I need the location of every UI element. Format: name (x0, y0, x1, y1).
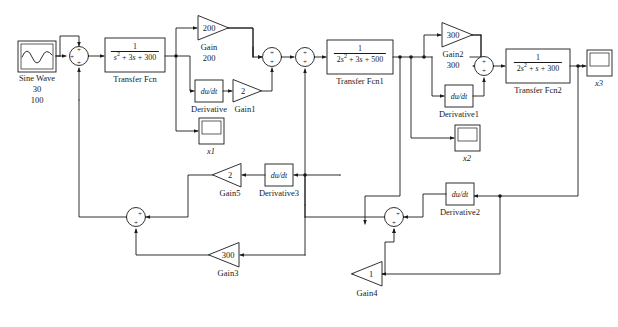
transfer-fcn1-numerator: 1 (334, 44, 386, 53)
transfer-fcn2-numerator: 1 (514, 53, 562, 62)
transfer-fcn1-expression: 1 2s2 + 3s + 500 (334, 44, 386, 64)
sum5-sign-bottom: + (392, 219, 396, 227)
scope-x3-label: x3 (595, 78, 603, 88)
gain3-value: 1 (369, 269, 373, 279)
transfer-fcn1-label: Transfer Fcn1 (336, 76, 384, 86)
transfer-fcn-numerator: 1 (111, 42, 159, 51)
gain2-parameter: 300 (447, 60, 460, 70)
gain1-label: Gain1 (235, 104, 256, 114)
transfer-fcn2-expression: 1 2s2 + s + 300 (514, 53, 562, 73)
sum3-sign-left: + (303, 49, 307, 57)
sum2-sign-left: + (270, 49, 274, 57)
gain-value: 200 (203, 23, 216, 33)
gain1-value: 2 (241, 86, 245, 96)
sum2-sign-bottom: + (270, 58, 274, 66)
derivative3-value: du/dt (271, 171, 287, 180)
scope-x2-label: x2 (463, 153, 471, 163)
sum4-sign-bottom: + (482, 67, 486, 75)
sum4-sign-left: + (482, 58, 486, 66)
transfer-fcn1-denominator: 2s2 + 3s + 500 (334, 53, 386, 64)
scope-x1-block[interactable] (199, 118, 224, 144)
sine-wave-label: Sine Wave (19, 73, 55, 83)
transfer-fcn-label: Transfer Fcn (113, 74, 156, 84)
gain3-block[interactable] (352, 262, 382, 286)
sum5-sign-right: + (396, 210, 400, 218)
sum6-sign-right: + (138, 210, 142, 218)
sine-wave-amplitude: 30 (33, 84, 42, 94)
derivative-label: Derivative (191, 104, 227, 114)
sum1-sign-bottom: + (77, 59, 81, 67)
sine-wave-frequency: 100 (31, 95, 44, 105)
transfer-fcn2-label: Transfer Fcn2 (514, 85, 562, 95)
derivative1-label: Derivative1 (439, 109, 479, 119)
transfer-fcn2-denominator: 2s2 + s + 300 (514, 62, 562, 73)
gain2-value: 300 (447, 30, 460, 40)
scope-x2-block[interactable] (455, 125, 480, 151)
derivative2-label: Derivative2 (440, 207, 480, 217)
gain3-label: Gain4 (357, 288, 378, 298)
transfer-fcn-denominator: s2 + 3s + 300 (111, 51, 159, 62)
gain5-label: Gain5 (220, 188, 241, 198)
sum1-sign-left: + (70, 53, 74, 61)
derivative1-value: du/dt (451, 92, 467, 101)
gain-label: Gain (201, 42, 218, 52)
gain4-label: Gain3 (218, 268, 239, 278)
derivative-value: du/dt (201, 87, 217, 96)
gain-parameter: 200 (203, 53, 216, 63)
derivative2-value: du/dt (452, 190, 468, 199)
derivative3-label: Derivative3 (259, 188, 299, 198)
block-diagram-canvas (0, 0, 618, 327)
gain2-label: Gain2 (443, 49, 464, 59)
gain5-value: 2 (228, 170, 232, 180)
transfer-fcn-expression: 1 s2 + 3s + 300 (111, 42, 159, 62)
sum1-sign-top: + (77, 46, 81, 54)
sum6-sign-bottom: + (134, 219, 138, 227)
sine-wave-block[interactable] (18, 41, 56, 72)
scope-x3-block[interactable] (587, 50, 612, 76)
gain4-value: 300 (222, 250, 235, 260)
gain1-block[interactable] (233, 80, 261, 102)
sum3-sign-bottom: + (303, 58, 307, 66)
scope-x1-label: x1 (207, 146, 215, 156)
